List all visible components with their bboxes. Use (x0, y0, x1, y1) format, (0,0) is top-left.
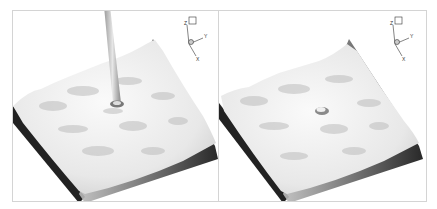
axis-y-label: Y (410, 33, 414, 39)
surface-render-right: Z Y X (219, 11, 426, 201)
left-panel: Z Y X (12, 10, 219, 202)
surface-render-left: Z Y X (13, 11, 218, 201)
axes-triad-icon (393, 17, 409, 56)
axis-x-label: X (196, 56, 200, 62)
axis-z-label: Z (390, 20, 393, 26)
axis-z-label: Z (184, 20, 187, 26)
axis-x-label: X (402, 56, 406, 62)
right-panel: Z Y X (218, 10, 427, 202)
axes-triad-icon (187, 17, 203, 56)
axis-y-label: Y (204, 33, 208, 39)
